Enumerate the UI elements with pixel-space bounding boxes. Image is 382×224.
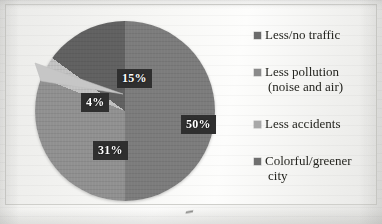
legend-item-colorful-greener-city: Colorful/greener city	[254, 153, 382, 183]
pie-data-label-4: 4%	[81, 93, 109, 112]
pie-data-label-50: 50%	[181, 115, 216, 134]
legend-swatch-icon	[254, 69, 261, 76]
pie-data-label-31: 31%	[93, 141, 128, 160]
legend-item-less-no-traffic: Less/no traffic	[254, 27, 382, 42]
legend-label-line1: Less pollution	[265, 64, 339, 79]
legend-label-line1: Colorful/greener	[265, 153, 352, 168]
legend-swatch-icon	[254, 32, 261, 39]
legend-swatch-icon	[254, 121, 261, 128]
pie-data-label-15: 15%	[117, 69, 152, 88]
chart-frame: 15% 4% 31% 50% Less/no traffic Less poll…	[5, 4, 377, 205]
legend-item-less-pollution: Less pollution (noise and air)	[254, 64, 382, 94]
legend-swatch-icon	[254, 158, 261, 165]
pie-slices	[35, 21, 215, 201]
legend-item-less-accidents: Less accidents	[254, 116, 382, 131]
legend-label-line2: city	[265, 168, 352, 183]
chart-legend: Less/no traffic Less pollution (noise an…	[254, 27, 382, 205]
pie-chart-image: 15% 4% 31% 50% Less/no traffic Less poll…	[0, 0, 382, 224]
legend-item-label: Colorful/greener city	[265, 153, 352, 183]
legend-label-line2: (noise and air)	[265, 79, 343, 94]
legend-label-line1: Less/no traffic	[265, 27, 340, 42]
legend-label-line1: Less accidents	[265, 116, 340, 131]
legend-item-label: Less pollution (noise and air)	[265, 64, 343, 94]
pie-chart: 15% 4% 31% 50%	[31, 17, 219, 201]
legend-item-label: Less accidents	[265, 116, 340, 131]
legend-item-label: Less/no traffic	[265, 27, 340, 42]
